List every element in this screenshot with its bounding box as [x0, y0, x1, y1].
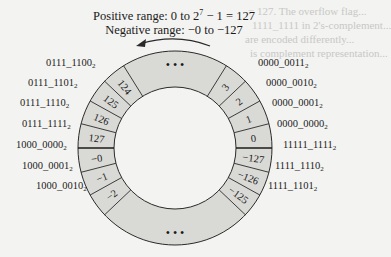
binary-label-left: 0111_11012 [28, 77, 78, 90]
binary-label-left: 0111_11112 [22, 118, 71, 131]
binary-label-left: 0111_11102 [20, 97, 69, 110]
binary-label-left: 1000_00012 [22, 160, 73, 173]
ring-cell-left: −0 [90, 152, 102, 164]
binary-label-right: 0000_00112 [258, 57, 308, 70]
binary-label-left: 0111_11002 [46, 57, 96, 70]
binary-label-right: 0000_00012 [272, 97, 323, 110]
binary-label-right: 0000_00002 [277, 118, 328, 131]
binary-label-left: 1000_00102 [36, 180, 87, 193]
top-ellipsis: • • • [166, 58, 185, 72]
binary-label-right: 1111_11012 [268, 180, 317, 193]
counterclockwise-arrow-icon [136, 39, 210, 47]
bottom-ellipsis: • • • [166, 226, 185, 240]
binary-label-right: 1111_11102 [275, 160, 324, 173]
ring-cell-left: 127 [88, 132, 105, 145]
binary-label-left: 1000_00002 [16, 139, 67, 152]
binary-label-right: 0000_00102 [266, 77, 317, 90]
binary-label-right: 11111_11112 [283, 139, 336, 152]
